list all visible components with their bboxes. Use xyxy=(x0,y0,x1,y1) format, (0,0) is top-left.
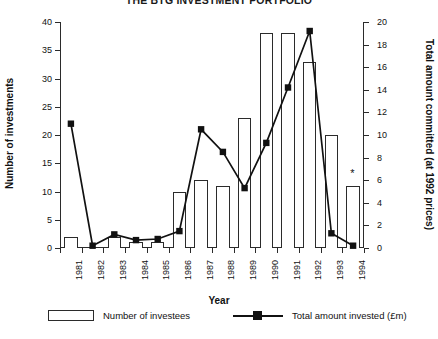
y-axis-right-tick xyxy=(364,67,369,68)
x-axis-tick-label: 1987 xyxy=(206,260,215,280)
y-axis-right-tick xyxy=(364,225,369,226)
plot-area: 0510152025303540 02468101214161820 * xyxy=(60,22,364,248)
x-axis-tick-label: 1990 xyxy=(271,260,280,280)
legend-item-amount: Total amount invested (£m) xyxy=(233,310,407,321)
y-axis-left-tick-label: 5 xyxy=(47,215,52,224)
y-axis-left-tick-label: 40 xyxy=(42,18,52,27)
legend-label-amount: Total amount invested (£m) xyxy=(292,310,407,321)
legend-label-investees: Number of investees xyxy=(103,310,190,321)
x-axis-labels: 1981198219831984198519861987198819891990… xyxy=(60,252,364,296)
line-marker xyxy=(285,84,291,90)
x-axis-title: Year xyxy=(0,295,438,306)
x-axis-tick-label: 1984 xyxy=(141,260,150,280)
y-axis-right-tick-label: 0 xyxy=(377,244,382,253)
line-series xyxy=(60,22,364,248)
x-axis-tick-label: 1981 xyxy=(75,260,84,280)
x-axis-tick-label: 1989 xyxy=(249,260,258,280)
y-axis-right-tick-label: 14 xyxy=(377,85,387,94)
y-axis-right-tick xyxy=(364,112,369,113)
y-axis-left-tick-label: 15 xyxy=(42,159,52,168)
y-axis-right-tick-label: 8 xyxy=(377,153,382,162)
y-axis-left-tick-label: 30 xyxy=(42,74,52,83)
x-axis-tick-label: 1985 xyxy=(162,260,171,280)
x-axis-tick-label: 1982 xyxy=(97,260,106,280)
line-marker xyxy=(241,185,247,191)
y-axis-right-tick xyxy=(364,135,369,136)
line-marker xyxy=(198,126,204,132)
x-axis-tick-label: 1983 xyxy=(119,260,128,280)
legend-item-investees: Number of investees xyxy=(48,310,190,321)
y-axis-right-tick xyxy=(364,203,369,204)
chart-legend: Number of investees Total amount investe… xyxy=(0,306,438,332)
y-axis-left-tick-label: 20 xyxy=(42,131,52,140)
y-axis-right-tick xyxy=(364,22,369,23)
y-axis-left-tick-label: 35 xyxy=(42,46,52,55)
y-axis-right-tick-label: 6 xyxy=(377,176,382,185)
legend-bar-swatch-icon xyxy=(48,310,94,321)
x-axis-tick-label: 1988 xyxy=(227,260,236,280)
line-marker xyxy=(89,243,95,249)
x-axis-tick-label: 1993 xyxy=(336,260,345,280)
y-axis-right-tick-label: 4 xyxy=(377,198,382,207)
y-axis-right-tick-label: 20 xyxy=(377,18,387,27)
y-axis-right-title: Total amount committed (at 1992 prices) xyxy=(422,14,436,254)
y-axis-left-title: Number of investments xyxy=(2,38,16,228)
line-path xyxy=(71,31,353,246)
y-axis-right-tick-label: 16 xyxy=(377,63,387,72)
y-axis-right-tick xyxy=(364,158,369,159)
line-marker xyxy=(176,228,182,234)
y-axis-right-tick-label: 12 xyxy=(377,108,387,117)
x-axis-tick-label: 1986 xyxy=(184,260,193,280)
line-marker xyxy=(155,236,161,242)
x-axis-tick-label: 1991 xyxy=(293,260,302,280)
y-axis-right-tick-label: 18 xyxy=(377,40,387,49)
y-axis-right-tick-label: 2 xyxy=(377,221,382,230)
x-axis-tick xyxy=(364,248,365,253)
line-marker xyxy=(111,231,117,237)
x-axis-tick-label: 1994 xyxy=(358,260,367,280)
y-axis-left-tick-label: 10 xyxy=(42,187,52,196)
y-axis-right-tick xyxy=(364,90,369,91)
line-marker xyxy=(133,237,139,243)
y-axis-left-tick-label: 0 xyxy=(47,244,52,253)
chart-root: THE BTG INVESTMENT PORTFOLIO Number of i… xyxy=(0,0,438,339)
legend-line-marker-icon xyxy=(233,310,283,321)
y-axis-left-tick-label: 25 xyxy=(42,102,52,111)
line-marker xyxy=(263,140,269,146)
y-axis-right-tick xyxy=(364,45,369,46)
line-marker xyxy=(220,149,226,155)
line-marker xyxy=(68,121,74,127)
line-marker xyxy=(350,243,356,249)
line-marker xyxy=(307,28,313,34)
line-marker xyxy=(328,230,334,236)
x-axis-tick-label: 1992 xyxy=(314,260,323,280)
chart-title: THE BTG INVESTMENT PORTFOLIO xyxy=(0,0,438,6)
y-axis-right-tick-label: 10 xyxy=(377,131,387,140)
y-axis-right-tick xyxy=(364,180,369,181)
